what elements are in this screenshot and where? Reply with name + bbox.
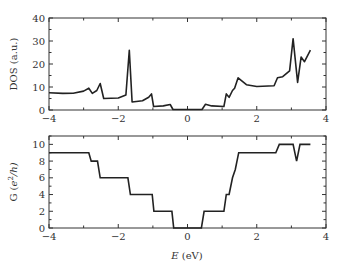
dos-tick-labels: −4−2024010203040 xyxy=(32,13,329,125)
conductance-ylabel: G (e2/h) xyxy=(7,162,19,201)
y-tick-label: 10 xyxy=(32,82,45,93)
x-tick-label: 0 xyxy=(184,231,190,242)
conductance-curve xyxy=(49,144,310,228)
x-tick-label: 0 xyxy=(184,113,190,124)
dos-ticks xyxy=(49,18,326,110)
conductance-panel: −4−20240246810 G (e2/h) E (eV) xyxy=(7,136,329,261)
conductance-ticks xyxy=(49,136,326,228)
y-tick-label: 2 xyxy=(39,206,45,217)
dos-plot-frame xyxy=(49,18,326,110)
energy-xlabel: E (eV) xyxy=(170,250,203,261)
x-tick-label: 2 xyxy=(254,113,260,124)
y-tick-label: 8 xyxy=(39,156,45,167)
x-tick-label: 4 xyxy=(323,231,329,242)
x-tick-label: −2 xyxy=(111,113,126,124)
y-tick-label: 10 xyxy=(32,139,45,150)
x-tick-label: 2 xyxy=(254,231,260,242)
conductance-plot-frame xyxy=(49,136,326,228)
figure: −4−2024010203040 DOS (a.u.) −4−202402468… xyxy=(0,0,344,270)
x-tick-label: 4 xyxy=(323,113,329,124)
dos-ylabel: DOS (a.u.) xyxy=(8,38,19,91)
dos-panel: −4−2024010203040 DOS (a.u.) xyxy=(8,13,329,125)
y-tick-label: 20 xyxy=(32,59,45,70)
y-tick-label: 0 xyxy=(39,223,45,234)
dos-curve xyxy=(49,39,310,110)
y-tick-label: 30 xyxy=(32,36,45,47)
y-tick-label: 4 xyxy=(39,189,45,200)
y-tick-label: 40 xyxy=(32,13,45,24)
y-tick-label: 0 xyxy=(39,105,45,116)
conductance-tick-labels: −4−20240246810 xyxy=(32,139,329,242)
y-tick-label: 6 xyxy=(39,172,45,183)
x-tick-label: −2 xyxy=(111,231,126,242)
